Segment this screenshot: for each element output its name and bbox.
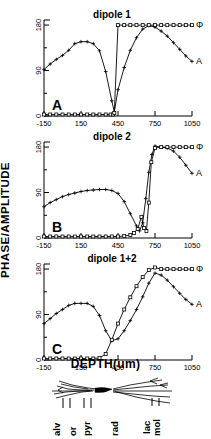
y-tick-label: 90 — [34, 310, 43, 318]
plot-c: 180900-1501504507501050dipole 1+2CAΦ — [0, 252, 211, 374]
y-tick-marks — [44, 269, 49, 360]
series-label-amplitude: A — [196, 168, 202, 178]
y-tick-marks — [44, 25, 49, 116]
y-tick-marks — [44, 147, 49, 238]
series-line-phase — [44, 268, 192, 359]
series-label-phase: Φ — [196, 20, 203, 30]
panel-tag: B — [52, 219, 62, 235]
layer-labels-svg: alvorpyrradlacmol — [0, 372, 211, 439]
y-tick-label: 0 — [34, 114, 43, 118]
x-tick-label: 150 — [75, 241, 88, 250]
panel-tag: C — [52, 341, 62, 357]
y-tick-label: 180 — [34, 263, 43, 276]
panel-tag: A — [52, 97, 62, 113]
axis-spines — [44, 264, 192, 360]
series-line-amplitude — [44, 273, 192, 341]
series-markers-amplitude — [42, 271, 194, 342]
series-markers-amplitude — [42, 144, 194, 233]
panel-a: 180900-1501504507501050dipole 1AAΦ — [0, 8, 211, 130]
x-tick-label: 750 — [149, 241, 162, 250]
panel-b: 180900-1501504507501050dipole 2BAΦ — [0, 130, 211, 252]
x-tick-label: 150 — [75, 119, 88, 128]
y-tick-label: 90 — [34, 66, 43, 74]
layer-label-mol: mol — [151, 419, 162, 436]
x-tick-marks — [44, 111, 192, 116]
layer-label-pyr: pyr — [81, 421, 92, 436]
series-label-phase: Φ — [196, 142, 203, 152]
series-label-phase: Φ — [196, 264, 203, 274]
figure-root: PHASE/AMPLITUDE 180900-1501504507501050d… — [0, 0, 211, 439]
x-tick-label: 450 — [112, 241, 125, 250]
panel-title: dipole 1+2 — [87, 253, 137, 264]
series-line-amplitude — [44, 146, 192, 231]
plot-a: 180900-1501504507501050dipole 1AAΦ — [0, 8, 211, 130]
x-axis-label: DEPTH(um) — [0, 357, 211, 371]
series-line-amplitude — [44, 26, 192, 112]
series-markers-phase — [43, 266, 194, 360]
y-tick-label: 90 — [34, 188, 43, 196]
panel-c: 180900-1501504507501050dipole 1+2CAΦ — [0, 252, 211, 374]
y-tick-label: 180 — [34, 141, 43, 154]
layer-label-rad: rad — [109, 421, 120, 436]
y-tick-label: 0 — [34, 236, 43, 240]
x-tick-label: 450 — [112, 119, 125, 128]
panel-title: dipole 2 — [93, 131, 131, 142]
axis-spines — [44, 142, 192, 238]
series-label-amplitude: A — [196, 299, 202, 309]
y-tick-label: 180 — [34, 19, 43, 32]
series-label-amplitude: A — [196, 56, 202, 66]
x-tick-label: -150 — [36, 241, 51, 250]
layer-label-alv: alv — [51, 422, 62, 436]
x-tick-label: 1050 — [184, 119, 201, 128]
neuron-morphology-diagram: alvorpyrradlacmol — [0, 372, 211, 439]
x-tick-label: -150 — [36, 119, 51, 128]
series-markers-amplitude — [42, 24, 194, 114]
panel-title: dipole 1 — [93, 9, 131, 20]
series-markers-phase — [43, 24, 194, 116]
layer-label-or: or — [67, 426, 78, 436]
x-tick-label: 750 — [149, 119, 162, 128]
x-tick-label: 1050 — [184, 241, 201, 250]
plot-b: 180900-1501504507501050dipole 2BAΦ — [0, 130, 211, 252]
